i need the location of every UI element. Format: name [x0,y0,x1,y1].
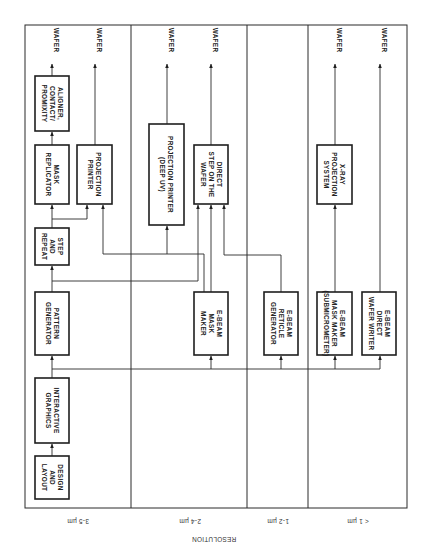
technology-flow-diagram: 3-5 µm 2-4 µm 1-2 µm < 1 µm RESOLUTION [0,0,427,557]
box-directstep: DIRECTSTEP ON THEWAFER [194,145,228,204]
wafer-label: WAFER [168,28,175,53]
box-patgen: PATTERNGENERATOR [35,292,69,355]
box-ebsubmicro: E-BEAMMASK MAKER(SUBMICROMETER) [317,291,352,357]
box-label-line: E-BEAM [384,310,391,337]
box-label-line: STEP ON THE [208,152,215,198]
column-label-1-2um: 1-2 µm [267,517,289,525]
box-label-line: RETICLE [278,309,285,339]
column-label-3-5um: 3-5 µm [67,517,89,525]
box-label-line: GENERATOR [270,302,277,345]
box-ebdirect: E-BEAMDIRECTWAFER WRITER [362,292,396,355]
box-label-line: SYSTEM [323,160,330,188]
box-label-line: AND [49,239,56,254]
box-ebreticle: E-BEAMRETICLEGENERATOR [264,292,298,355]
box-design: DESIGNANDLAYOUT [35,456,69,499]
box-label-line: E-BEAM [286,310,293,337]
box-label-line: REPLICATOR [45,153,52,197]
box-ebmask: E-BEAMMASKMAKER [194,292,228,355]
box-label-line: DESIGN [57,464,64,490]
box-label-line: WAFER [200,162,207,187]
box-aligner: ALIGNER,CONTACT/PROMIXITY [35,76,69,131]
box-label-line: PATTERN [53,308,60,339]
wafer-label: WAFER [381,28,388,53]
box-projprinter: PROJECTIONPRINTER [77,145,112,204]
box-label-line: PROMIXITY [41,85,48,123]
box-steprepeat: STEPANDREPEAT [35,228,69,265]
connectors [52,64,380,456]
box-label-line: PRINTER [87,159,94,189]
box-label-line: (SUBMICROMETER) [322,291,330,357]
box-label-line: GENERATOR [45,302,52,345]
box-label-line: STEP [57,238,64,256]
column-labels: 3-5 µm 2-4 µm 1-2 µm < 1 µm RESOLUTION [67,517,369,543]
box-label-line: X-RAY [339,164,346,185]
box-label-line: CONTACT/ [49,86,56,121]
box-label-line: PROJECTION PRINTER [167,136,174,213]
axis-label-resolution: RESOLUTION [192,536,237,543]
box-xray: X-RAYPROJECTIONSYSTEM [317,145,352,204]
wafer-label: WAFER [212,28,219,53]
box-label-line: MAKER [200,311,207,336]
box-label-line: WAFER WRITER [368,297,375,351]
box-label-line: E-BEAM [339,310,346,337]
box-label-line: ALIGNER, [56,87,64,120]
box-label-line: PROJECTION [331,152,338,197]
box-label-line: DIRECT [216,162,223,188]
box-label-line: MASK [208,313,215,333]
box-deepuv: PROJECTION PRINTER(DEEP UV) [149,124,184,225]
wafer-outputs: WAFER WAFER WAFER WAFER WAFER WAFER [53,28,388,53]
box-label-line: DIRECT [376,311,383,337]
box-label-line: INTERACTIVE [53,388,60,434]
column-label-2-4um: 2-4 µm [179,517,201,525]
box-graphics: INTERACTIVEGRAPHICS [35,378,69,443]
box-label-line: (DEEP UV) [158,157,166,192]
box-label-line: LAYOUT [41,464,48,491]
box-maskrep: MASKREPLICATOR [35,145,69,204]
resolution-frame [25,25,407,508]
wafer-label: WAFER [96,28,103,53]
box-label-line: MASK [53,164,60,184]
box-label-line: AND [49,470,56,485]
box-label-line: PROJECTION [95,152,102,197]
wafer-label: WAFER [53,28,60,53]
box-label-line: MASK MAKER [331,300,338,347]
box-label-line: E-BEAM [216,310,223,337]
wafer-label: WAFER [336,28,343,53]
box-label-line: REPEAT [41,233,48,260]
box-label-line: GRAPHICS [45,392,52,429]
column-label-sub-1um: < 1 µm [347,517,369,525]
